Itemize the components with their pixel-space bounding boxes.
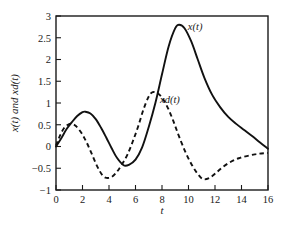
x-curve-label: x(t)	[187, 21, 203, 33]
x-axis-ticks	[56, 185, 268, 190]
x-tick-label: 0	[53, 194, 58, 205]
y-tick-label: 0.5	[38, 120, 51, 131]
curve-annotations: x(t)xd(t)	[159, 21, 203, 106]
x-tick-label: 12	[210, 194, 221, 205]
x-tick-label: 14	[236, 194, 247, 205]
y-tick-label: 1.5	[38, 76, 51, 87]
x-axis-title: t	[160, 204, 164, 216]
y-tick-label: 0	[46, 141, 51, 152]
x-tick-label: 2	[80, 194, 85, 205]
x-tick-label: 4	[106, 194, 112, 205]
y-axis-ticks	[56, 16, 61, 190]
y-axis-title: x(t) and xd(t)	[8, 74, 21, 133]
plot-svg: 0246810121416 −1−0.500.511.522.53 t x(t)…	[0, 0, 295, 228]
x-tick-label: 10	[183, 194, 194, 205]
y-tick-label: 2	[46, 54, 51, 65]
y-tick-label: 1	[46, 98, 51, 109]
xd-curve-label: xd(t)	[159, 94, 180, 106]
y-axis-tick-labels: −1−0.500.511.522.53	[32, 11, 51, 196]
x-tick-label: 6	[133, 194, 138, 205]
y-tick-label: −0.5	[32, 163, 51, 174]
y-tick-label: −1	[40, 185, 51, 196]
figure-container: 0246810121416 −1−0.500.511.522.53 t x(t)…	[0, 0, 295, 228]
x-tick-label: 16	[263, 194, 274, 205]
series-line-xd	[56, 92, 268, 179]
y-tick-label: 2.5	[38, 33, 51, 44]
y-tick-label: 3	[46, 11, 51, 22]
